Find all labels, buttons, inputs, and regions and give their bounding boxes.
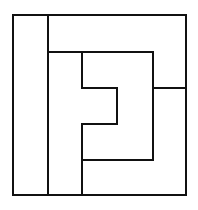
tiling-diagram [0, 0, 198, 210]
outer-frame [13, 15, 186, 195]
diagram-canvas [0, 0, 198, 210]
divider-lines [48, 15, 186, 195]
